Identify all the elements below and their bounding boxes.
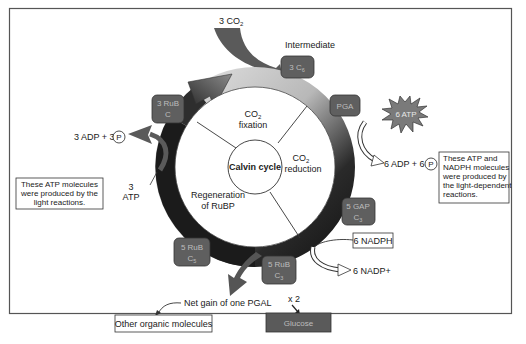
adp-left-label: 3 ADP + 3 bbox=[74, 132, 115, 142]
note-right: These ATP and NADPH molecules were produ… bbox=[439, 152, 512, 203]
svg-text:reactions.: reactions. bbox=[443, 190, 478, 199]
nadph-box: 6 NADPH bbox=[353, 233, 393, 248]
intermediate-label: Intermediate bbox=[285, 40, 335, 50]
calvin-cycle-title: Calvin cycle bbox=[229, 162, 281, 172]
svg-text:light reactions.: light reactions. bbox=[34, 198, 86, 207]
svg-text:5 RuB: 5 RuB bbox=[268, 260, 290, 269]
nadp-label: 6 NADP+ bbox=[353, 266, 391, 276]
other-organic-molecules-box: Other organic molecules bbox=[115, 315, 213, 332]
svg-text:were produced by: were produced by bbox=[442, 172, 507, 181]
molecule-5-gap: 5 GAP C3 bbox=[342, 198, 375, 225]
svg-text:the light-dependent: the light-dependent bbox=[443, 181, 512, 190]
adp-right-label: 6 ADP + 6 bbox=[384, 159, 425, 169]
svg-text:These ATP and: These ATP and bbox=[443, 154, 497, 163]
svg-text:6 NADPH: 6 NADPH bbox=[353, 236, 392, 246]
svg-text:These ATP molecules: These ATP molecules bbox=[21, 180, 98, 189]
molecule-pga: PGA bbox=[330, 95, 360, 116]
svg-text:reduction: reduction bbox=[284, 164, 321, 174]
net-gain-label: Net gain of one PGAL bbox=[184, 298, 272, 308]
svg-text:P: P bbox=[428, 160, 433, 169]
atp-left-label: ATP bbox=[123, 192, 140, 202]
svg-text:5 GAP: 5 GAP bbox=[346, 202, 370, 211]
svg-text:3 RuB: 3 RuB bbox=[157, 99, 179, 108]
adp-right-arrow bbox=[360, 122, 384, 166]
svg-text:fixation: fixation bbox=[239, 120, 268, 130]
glucose-box: Glucose bbox=[266, 313, 331, 332]
molecule-3-rub: 3 RuB C bbox=[152, 95, 184, 123]
co2-input-label: 3 CO2 bbox=[219, 16, 244, 27]
calvin-cycle-diagram: 3 CO2 Calvin cycle CO2 fixation CO2 redu… bbox=[0, 0, 526, 344]
atp-right-label: 6 ATP bbox=[395, 110, 416, 119]
phase-regeneration: Regeneration bbox=[191, 190, 245, 200]
svg-text:PGA: PGA bbox=[337, 102, 355, 111]
svg-text:Other organic molecules: Other organic molecules bbox=[115, 319, 213, 329]
svg-text:P: P bbox=[116, 133, 121, 142]
atp-left-count: 3 bbox=[128, 182, 133, 192]
svg-text:of RuBP: of RuBP bbox=[201, 201, 235, 211]
svg-text:were produced by the: were produced by the bbox=[20, 189, 98, 198]
nadp-output-arrow bbox=[313, 247, 351, 276]
molecule-3-c6: 3 C6 bbox=[281, 56, 314, 78]
note-left: These ATP molecules were produced by the… bbox=[16, 178, 103, 209]
multiplier-label: x 2 bbox=[288, 294, 300, 304]
svg-text:C: C bbox=[165, 110, 171, 119]
svg-text:5 RuB: 5 RuB bbox=[181, 243, 203, 252]
svg-text:NADPH molecules: NADPH molecules bbox=[443, 163, 509, 172]
svg-text:Glucose: Glucose bbox=[284, 319, 314, 328]
molecule-5-rub-bottom: 5 RuB C3 bbox=[262, 256, 296, 284]
molecule-5-rub-left: 5 RuB C5 bbox=[174, 238, 210, 266]
